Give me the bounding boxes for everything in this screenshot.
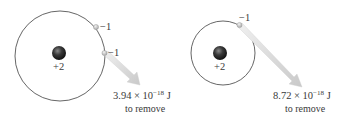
right-energy-exponent: −18 — [313, 89, 324, 97]
left-electron-2-charge: −1 — [108, 48, 119, 59]
left-energy-mantissa: 3.94 × 10 — [113, 90, 153, 101]
right-energy-caption: to remove — [285, 104, 325, 114]
right-atom — [191, 21, 302, 87]
right-energy-mantissa: 8.72 × 10 — [273, 90, 313, 101]
left-atom — [15, 11, 140, 101]
left-electron-2 — [102, 50, 107, 55]
left-nucleus — [52, 46, 66, 60]
left-energy-caption: to remove — [125, 104, 165, 114]
right-removal-arrow — [238, 23, 302, 87]
left-electron-1-charge: −1 — [100, 22, 111, 33]
left-electron-1 — [93, 24, 98, 29]
left-ionization-energy: 3.94 × 10−18 J — [113, 91, 171, 102]
right-ionization-energy: 8.72 × 10−18 J — [273, 91, 331, 102]
right-electron-1-charge: −1 — [239, 13, 250, 24]
right-nucleus-charge: +2 — [214, 62, 225, 73]
right-energy-unit: J — [324, 90, 331, 101]
right-nucleus — [213, 46, 227, 60]
left-energy-unit: J — [164, 90, 171, 101]
left-energy-exponent: −18 — [153, 89, 164, 97]
left-nucleus-charge: +2 — [53, 62, 64, 73]
